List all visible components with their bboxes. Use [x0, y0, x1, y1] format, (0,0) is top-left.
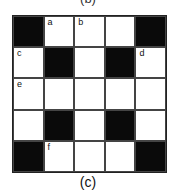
white-cell [105, 78, 136, 109]
white-cell: b [74, 16, 105, 47]
cell-label: c [17, 49, 22, 58]
crossword-grid: abcdef [12, 15, 167, 173]
black-cell [44, 47, 75, 78]
white-cell: a [44, 16, 75, 47]
black-cell [44, 110, 75, 141]
white-cell [74, 78, 105, 109]
white-cell [44, 78, 75, 109]
white-cell: d [135, 47, 166, 78]
black-cell [105, 47, 136, 78]
figure-caption: (c) [0, 174, 176, 190]
white-cell [74, 47, 105, 78]
cell-label: f [48, 143, 51, 152]
black-cell [135, 16, 166, 47]
black-cell [105, 110, 136, 141]
white-cell: f [44, 141, 75, 172]
black-cell [135, 141, 166, 172]
white-cell [105, 141, 136, 172]
cell-label: e [17, 80, 22, 89]
cell-label: d [139, 49, 144, 58]
white-cell [135, 110, 166, 141]
white-cell [13, 110, 44, 141]
white-cell [74, 110, 105, 141]
white-cell [105, 16, 136, 47]
black-cell [13, 16, 44, 47]
white-cell [74, 141, 105, 172]
white-cell [135, 78, 166, 109]
black-cell [13, 141, 44, 172]
previous-figure-label: (b) [0, 0, 176, 6]
cell-label: a [48, 18, 53, 27]
cell-label: b [78, 18, 83, 27]
white-cell: c [13, 47, 44, 78]
white-cell: e [13, 78, 44, 109]
